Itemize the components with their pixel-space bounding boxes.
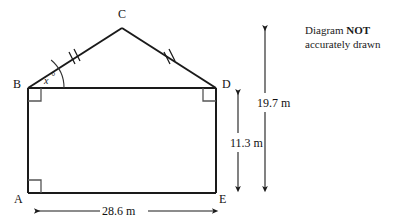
dimension-height-total: 19.7 m [257, 28, 291, 189]
angle-label-x: x [43, 75, 49, 86]
vertex-label-C: C [118, 7, 126, 21]
note-line1-bold: NOT [346, 24, 370, 36]
vertex-label-D: D [222, 77, 231, 91]
dimension-label-28-6: 28.6 m [102, 204, 136, 218]
note-line1-prefix: Diagram [305, 24, 346, 36]
right-angle-marker-A [28, 180, 41, 193]
segment-BC [28, 28, 122, 88]
vertex-label-A: A [14, 192, 23, 206]
dimension-label-11-3: 11.3 m [230, 136, 264, 150]
note-line2: accurately drawn [305, 38, 380, 50]
shape-outline [28, 28, 216, 193]
diagram-canvas: x ° A B C D E 11.3 m [0, 0, 404, 221]
not-to-scale-note: Diagram NOT accurately drawn [305, 24, 401, 51]
vertex-label-B: B [13, 77, 21, 91]
right-angle-marker-B [28, 88, 41, 101]
right-angle-marker-D [203, 88, 216, 101]
vertex-label-E: E [219, 192, 226, 206]
right-angle-markers [28, 88, 216, 193]
dimension-label-19-7: 19.7 m [257, 96, 291, 110]
angle-degree-symbol: ° [51, 71, 55, 82]
segment-CD [122, 28, 216, 88]
dimension-width-base: 28.6 m [37, 204, 215, 218]
